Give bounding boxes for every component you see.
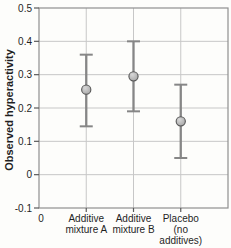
- confidence-interval-figure: 0.50.40.30.20.10-0.10Additivemixture AAd…: [0, 0, 231, 248]
- x-category-label: mixture A: [65, 224, 107, 235]
- y-tick-label: 0.3: [18, 69, 32, 80]
- x-origin-label: 0: [38, 213, 44, 224]
- y-tick-label: -0.1: [15, 203, 33, 214]
- x-category-label: Placebo: [163, 213, 200, 224]
- hyperactivity-chart: 0.50.40.30.20.10-0.10Additivemixture AAd…: [0, 0, 231, 248]
- mean-marker: [82, 85, 91, 94]
- x-category-label: mixture B: [112, 224, 155, 235]
- y-tick-label: 0.4: [18, 36, 32, 47]
- y-tick-label: 0.5: [18, 3, 32, 14]
- y-tick-label: 0: [26, 169, 32, 180]
- x-category-label: Additive: [116, 213, 152, 224]
- mean-marker: [176, 117, 185, 126]
- x-category-label: Additive: [68, 213, 104, 224]
- y-axis-title: Observed hyperactivity: [3, 48, 15, 171]
- x-category-label: additives): [159, 235, 202, 246]
- chart-canvas: 0.50.40.30.20.10-0.10Additivemixture AAd…: [3, 3, 228, 247]
- mean-marker: [129, 72, 138, 81]
- x-category-label: (no: [174, 224, 189, 235]
- y-tick-label: 0.2: [18, 103, 32, 114]
- y-tick-label: 0.1: [18, 136, 32, 147]
